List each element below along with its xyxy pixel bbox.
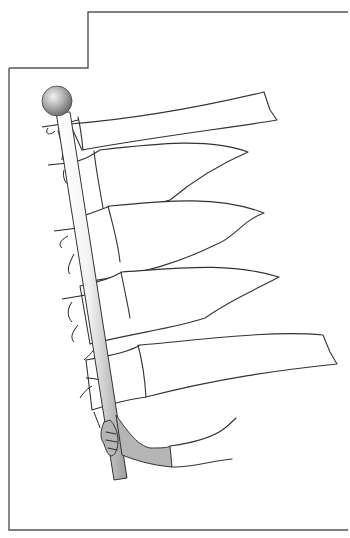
sleeve bbox=[170, 418, 236, 467]
finial-ball bbox=[42, 86, 72, 116]
flagpole-illustration bbox=[0, 0, 350, 538]
flag-5 bbox=[80, 334, 337, 428]
